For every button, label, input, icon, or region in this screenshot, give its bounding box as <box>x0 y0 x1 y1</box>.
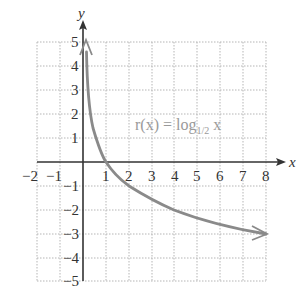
y-tick: −5 <box>63 273 79 289</box>
y-axis-label: y <box>76 5 85 21</box>
function-label: r(x) = log1/2 x <box>135 116 221 136</box>
function-label-base: 1/2 <box>196 125 209 136</box>
y-tick: 5 <box>71 34 79 50</box>
function-label-main: r(x) = log <box>135 116 196 134</box>
x-tick-labels: −2 −1 1 2 3 4 5 6 7 8 <box>22 168 270 184</box>
x-tick: 3 <box>148 168 156 184</box>
y-tick: −3 <box>63 226 79 242</box>
y-tick: 3 <box>71 82 79 98</box>
y-tick: 4 <box>71 58 79 74</box>
y-tick: 1 <box>71 130 79 146</box>
x-tick: 1 <box>102 168 110 184</box>
function-label-variable: x <box>209 116 221 133</box>
log-curve <box>87 52 267 234</box>
y-tick: −2 <box>63 202 79 218</box>
y-tick: 2 <box>71 106 79 122</box>
x-tick: −2 <box>22 168 38 184</box>
x-tick: 4 <box>171 168 179 184</box>
x-tick: 2 <box>125 168 133 184</box>
x-tick: 8 <box>262 168 270 184</box>
y-tick: −4 <box>63 250 79 266</box>
x-axis-label: x <box>288 154 296 170</box>
y-tick: −1 <box>63 178 79 194</box>
graph: x y −2 −1 1 2 3 4 5 6 7 8 5 4 3 2 1 −1 −… <box>0 0 304 302</box>
x-tick: 6 <box>216 168 224 184</box>
x-tick: 7 <box>239 168 247 184</box>
x-tick: 5 <box>193 168 201 184</box>
x-tick: −1 <box>46 168 62 184</box>
